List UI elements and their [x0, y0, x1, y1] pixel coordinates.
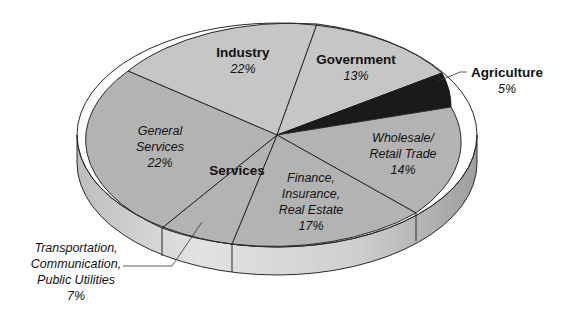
label-services-group: Services — [209, 164, 265, 178]
label-transport-line2: Communication, — [31, 257, 121, 271]
label-wholesale-line2: Retail Trade — [369, 147, 436, 161]
label-agriculture-pct: 5% — [498, 82, 516, 96]
label-wholesale-line1: Wholesale/ — [372, 131, 434, 145]
label-agriculture-name: Agriculture — [471, 66, 543, 80]
label-transport-line3: Public Utilities — [37, 273, 115, 287]
label-finance-pct: 17% — [298, 219, 323, 233]
label-industry-name: Industry — [216, 46, 269, 60]
label-wholesale-pct: 14% — [390, 163, 415, 177]
label-general-line1: General — [138, 124, 182, 138]
label-finance-line1: Finance, — [287, 171, 335, 185]
label-government-pct: 13% — [343, 69, 368, 83]
label-government-name: Government — [316, 53, 396, 67]
label-transport-pct: 7% — [67, 289, 85, 303]
label-general-line2: Services — [136, 140, 184, 154]
label-general-pct: 22% — [147, 156, 172, 170]
label-transport-line1: Transportation, — [34, 241, 117, 255]
label-industry-pct: 22% — [230, 62, 255, 76]
label-finance-line3: Real Estate — [279, 203, 344, 217]
label-finance-line2: Insurance, — [282, 187, 340, 201]
